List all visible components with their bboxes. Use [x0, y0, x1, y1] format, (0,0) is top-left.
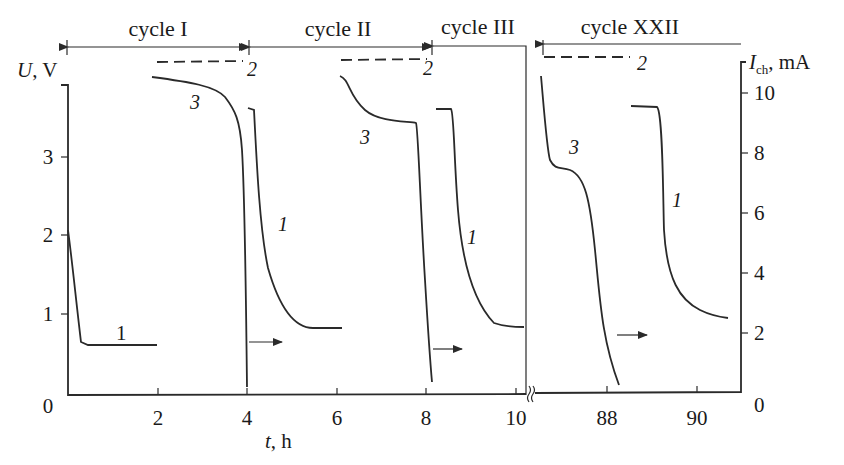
- series-3-cycle-22: [541, 76, 619, 385]
- curve-1-label: 1: [467, 226, 477, 248]
- curve-1-label: 1: [672, 189, 682, 211]
- curve-1-label: 1: [116, 321, 127, 345]
- y-right-unit: , mA: [768, 50, 811, 74]
- y-right-tick-label: 8: [754, 141, 765, 165]
- curve-3-label: 3: [359, 126, 370, 148]
- x-axis-title: t, h: [265, 429, 292, 453]
- x-tick-label: 6: [332, 406, 343, 430]
- axis-break-icon: [528, 386, 531, 402]
- curve-2-label: 2: [637, 52, 647, 74]
- series-1-cycle-3: [436, 109, 524, 327]
- y-right-tick-label: 10: [754, 81, 775, 105]
- tick-labels: 3 2 1 0 2 4 6 8 10 88 90 10 8 6 4 2 0: [43, 81, 775, 430]
- series-1: [68, 106, 728, 345]
- series-2-cycle-1: [157, 61, 243, 62]
- x-tick-label: 90: [687, 406, 708, 430]
- series-3: [152, 76, 619, 387]
- series-1-cycle-22: [631, 106, 728, 318]
- y-left-tick-label: 3: [43, 145, 54, 169]
- y-left-tick-label: 0: [43, 394, 54, 418]
- y-right-tick-label: 6: [754, 201, 765, 225]
- x-tick-label: 88: [597, 406, 618, 430]
- right-axis-arrows: [249, 335, 647, 349]
- x-tick-label: 2: [153, 406, 164, 430]
- series-3-cycle-1: [152, 77, 247, 387]
- curve-2-label: 2: [423, 57, 433, 79]
- y-left-tick-label: 1: [43, 302, 54, 326]
- series-1-cycle-1: [68, 230, 157, 345]
- y-right-axis-title: Ich, mA: [748, 50, 811, 77]
- x-unit: , h: [271, 429, 293, 453]
- series-3-cycle-2: [340, 76, 432, 382]
- cycle-1-label: cycle I: [128, 16, 187, 41]
- x-tick-label: 10: [506, 406, 527, 430]
- axes: [61, 62, 748, 402]
- y-right-tick-label: 0: [754, 393, 765, 417]
- chart: cycle I cycle II cycle III cycle XXII 3 …: [0, 0, 844, 465]
- axis-break-icon: [532, 386, 535, 402]
- x-tick-label: 8: [421, 406, 432, 430]
- y-left-tick-label: 2: [43, 223, 54, 247]
- y-left-axis-title: U, V: [17, 58, 57, 82]
- y-right-sub: ch: [756, 62, 769, 77]
- cycle-3-span-arrow: [433, 46, 526, 395]
- curve-3-label: 3: [568, 136, 579, 158]
- curve-3-label: 3: [189, 91, 200, 113]
- right-axis: [535, 62, 746, 393]
- y-left-unit: , V: [32, 58, 57, 82]
- curve-labels: 1 1 1 1 2 2 2 3 3 3: [116, 52, 682, 345]
- series-1-cycle-2: [248, 108, 342, 328]
- y-right-tick-label: 4: [754, 261, 765, 285]
- curve-2-label: 2: [247, 58, 257, 80]
- cycle-2-label: cycle II: [305, 16, 372, 41]
- series-2-cycle-2: [341, 59, 427, 60]
- series-2: [157, 57, 630, 62]
- cycle-3-label: cycle III: [441, 14, 515, 39]
- cycle-22-label: cycle XXII: [581, 14, 679, 39]
- curve-1-label: 1: [278, 213, 288, 235]
- y-right-tick-label: 2: [754, 321, 765, 345]
- x-tick-label: 4: [242, 406, 253, 430]
